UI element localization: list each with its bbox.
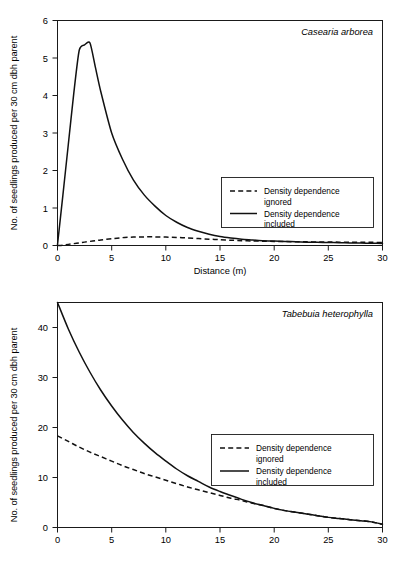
x-tick-label: 5 — [109, 535, 114, 545]
species-annotation: Tabebuia heterophylla — [282, 309, 373, 319]
x-tick-label: 15 — [215, 253, 225, 263]
chart-panel-tabebuia: 0 10 20 30 40 0 5 10 15 20 25 30 — [0, 290, 400, 582]
legend-label: Density dependence — [256, 443, 332, 453]
x-tick-label: 25 — [323, 535, 333, 545]
y-tick-label: 20 — [38, 423, 48, 433]
legend-label: included — [264, 219, 295, 229]
x-tick-label: 30 — [377, 535, 387, 545]
x-tick-label: 5 — [109, 253, 114, 263]
legend-label: ignored — [256, 454, 284, 464]
legend-label: included — [256, 477, 287, 487]
y-axis-label: No. of seedlings produced per 30 cm dbh … — [9, 300, 23, 550]
chart-legend: Density dependence ignored Density depen… — [212, 435, 374, 487]
y-tick-label: 6 — [43, 16, 48, 26]
x-tick-label: 0 — [55, 253, 60, 263]
series-line-density-ignored — [58, 237, 383, 246]
y-tick-label: 2 — [43, 166, 48, 176]
y-tick-label: 3 — [43, 129, 48, 139]
x-tick-label: 20 — [269, 535, 279, 545]
legend-label: ignored — [264, 197, 292, 207]
y-axis-label: No. of seedlings produced per 30 cm dbh … — [9, 8, 23, 258]
tabebuia-plot-svg: 0 10 20 30 40 0 5 10 15 20 25 30 — [0, 290, 400, 582]
y-tick-label: 10 — [38, 473, 48, 483]
y-tick-label: 4 — [43, 91, 48, 101]
x-tick-label: 25 — [323, 253, 333, 263]
species-annotation: Casearia arborea — [301, 27, 373, 37]
x-tick-label: 20 — [269, 253, 279, 263]
x-tick-label: 10 — [161, 535, 171, 545]
y-tick-label: 30 — [38, 373, 48, 383]
legend-label: Density dependence — [264, 209, 340, 219]
x-tick-label: 30 — [377, 253, 387, 263]
x-tick-label: 10 — [161, 253, 171, 263]
y-tick-label: 0 — [43, 241, 48, 251]
plot-frame — [58, 303, 383, 528]
series-line-density-included — [58, 303, 383, 525]
y-tick-label: 1 — [43, 204, 48, 214]
y-axis-ticks — [53, 328, 58, 528]
x-axis-ticks — [58, 246, 383, 251]
y-axis-ticks — [53, 21, 58, 246]
y-tick-label: 40 — [38, 323, 48, 333]
figure-page: 0 1 2 3 4 5 6 0 5 10 15 20 25 — [0, 0, 400, 582]
legend-label: Density dependence — [256, 466, 332, 476]
chart-legend: Density dependence ignored Density depen… — [222, 178, 374, 230]
x-axis-ticks — [58, 528, 383, 533]
legend-label: Density dependence — [264, 186, 340, 196]
casearia-plot-svg: 0 1 2 3 4 5 6 0 5 10 15 20 25 — [0, 0, 400, 290]
chart-panel-casearia: 0 1 2 3 4 5 6 0 5 10 15 20 25 — [0, 0, 400, 290]
y-tick-label: 5 — [43, 54, 48, 64]
x-tick-label: 0 — [55, 535, 60, 545]
x-axis-label: Distance (m) — [55, 266, 385, 276]
y-tick-label: 0 — [43, 523, 48, 533]
x-tick-label: 15 — [215, 535, 225, 545]
